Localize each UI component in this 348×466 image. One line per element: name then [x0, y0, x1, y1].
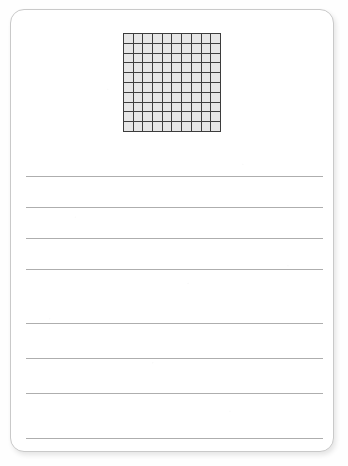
grid-cell[interactable] — [134, 103, 143, 112]
grid-cell[interactable] — [172, 63, 181, 72]
grid-cell[interactable] — [172, 73, 181, 82]
grid-cell[interactable] — [143, 83, 152, 92]
grid-cell[interactable] — [124, 112, 133, 121]
grid-cell[interactable] — [143, 34, 152, 43]
grid-cell[interactable] — [134, 122, 143, 131]
grid-cell[interactable] — [153, 112, 162, 121]
grid-cell[interactable] — [211, 54, 220, 63]
grid-cell[interactable] — [124, 103, 133, 112]
grid-cell[interactable] — [172, 103, 181, 112]
grid-cell[interactable] — [124, 93, 133, 102]
grid-cell[interactable] — [163, 93, 172, 102]
grid-cell[interactable] — [124, 83, 133, 92]
grid-cell[interactable] — [143, 112, 152, 121]
grid-cell[interactable] — [143, 73, 152, 82]
grid-cell[interactable] — [211, 63, 220, 72]
grid-cell[interactable] — [182, 34, 191, 43]
grid-cell[interactable] — [124, 54, 133, 63]
grid-cell[interactable] — [211, 34, 220, 43]
grid-cell[interactable] — [211, 103, 220, 112]
grid-cell[interactable] — [134, 93, 143, 102]
grid-cell[interactable] — [192, 83, 201, 92]
grid-cell[interactable] — [172, 122, 181, 131]
grid-cell[interactable] — [211, 112, 220, 121]
grid-cell[interactable] — [192, 63, 201, 72]
grid-cell[interactable] — [163, 54, 172, 63]
grid-cell[interactable] — [192, 122, 201, 131]
grid-cell[interactable] — [163, 103, 172, 112]
grid-cell[interactable] — [211, 83, 220, 92]
grid-cell[interactable] — [202, 93, 211, 102]
grid-cell[interactable] — [153, 122, 162, 131]
grid-cell[interactable] — [182, 112, 191, 121]
grid-cell[interactable] — [182, 44, 191, 53]
grid-cell[interactable] — [163, 44, 172, 53]
hundredths-grid[interactable] — [123, 33, 221, 132]
grid-cell[interactable] — [163, 112, 172, 121]
grid-cell[interactable] — [172, 93, 181, 102]
grid-cell[interactable] — [202, 44, 211, 53]
grid-cell[interactable] — [153, 44, 162, 53]
grid-cell[interactable] — [192, 73, 201, 82]
grid-cell[interactable] — [202, 63, 211, 72]
grid-cell[interactable] — [172, 44, 181, 53]
grid-cell[interactable] — [124, 44, 133, 53]
grid-cell[interactable] — [163, 122, 172, 131]
grid-cell[interactable] — [153, 83, 162, 92]
grid-cell[interactable] — [134, 54, 143, 63]
grid-cell[interactable] — [143, 54, 152, 63]
grid-cell[interactable] — [134, 44, 143, 53]
grid-cell[interactable] — [202, 112, 211, 121]
grid-cell[interactable] — [192, 54, 201, 63]
grid-cell[interactable] — [182, 63, 191, 72]
grid-cell[interactable] — [192, 93, 201, 102]
grid-cell[interactable] — [143, 103, 152, 112]
grid-cell[interactable] — [182, 73, 191, 82]
grid-cell[interactable] — [211, 73, 220, 82]
grid-cell[interactable] — [202, 34, 211, 43]
grid-cell[interactable] — [134, 34, 143, 43]
grid-cell[interactable] — [153, 54, 162, 63]
grid-cell[interactable] — [172, 34, 181, 43]
grid-cell[interactable] — [172, 112, 181, 121]
grid-cell[interactable] — [163, 63, 172, 72]
grid-cell[interactable] — [211, 93, 220, 102]
grid-cell[interactable] — [182, 83, 191, 92]
grid-cell[interactable] — [192, 34, 201, 43]
grid-cell[interactable] — [192, 44, 201, 53]
grid-cell[interactable] — [211, 44, 220, 53]
grid-cell[interactable] — [163, 34, 172, 43]
grid-cell[interactable] — [134, 63, 143, 72]
grid-cell[interactable] — [172, 54, 181, 63]
grid-cell[interactable] — [143, 44, 152, 53]
grid-cell[interactable] — [153, 63, 162, 72]
grid-cell[interactable] — [163, 83, 172, 92]
grid-cell[interactable] — [134, 83, 143, 92]
grid-cell[interactable] — [153, 73, 162, 82]
grid-cell[interactable] — [134, 73, 143, 82]
grid-cell[interactable] — [202, 73, 211, 82]
grid-cell[interactable] — [153, 34, 162, 43]
grid-cell[interactable] — [153, 93, 162, 102]
grid-cell[interactable] — [202, 122, 211, 131]
grid-cell[interactable] — [182, 122, 191, 131]
grid-cell[interactable] — [163, 73, 172, 82]
grid-cell[interactable] — [182, 93, 191, 102]
grid-cell[interactable] — [202, 83, 211, 92]
grid-cell[interactable] — [192, 103, 201, 112]
grid-cell[interactable] — [202, 54, 211, 63]
grid-cell[interactable] — [124, 63, 133, 72]
grid-cell[interactable] — [143, 93, 152, 102]
grid-cell[interactable] — [124, 34, 133, 43]
grid-cell[interactable] — [172, 83, 181, 92]
grid-cell[interactable] — [143, 122, 152, 131]
grid-cell[interactable] — [211, 122, 220, 131]
grid-cell[interactable] — [134, 112, 143, 121]
grid-cell[interactable] — [153, 103, 162, 112]
grid-cell[interactable] — [182, 103, 191, 112]
grid-cell[interactable] — [202, 103, 211, 112]
grid-cell[interactable] — [124, 73, 133, 82]
grid-cell[interactable] — [192, 112, 201, 121]
grid-cell[interactable] — [143, 63, 152, 72]
grid-cell[interactable] — [124, 122, 133, 131]
